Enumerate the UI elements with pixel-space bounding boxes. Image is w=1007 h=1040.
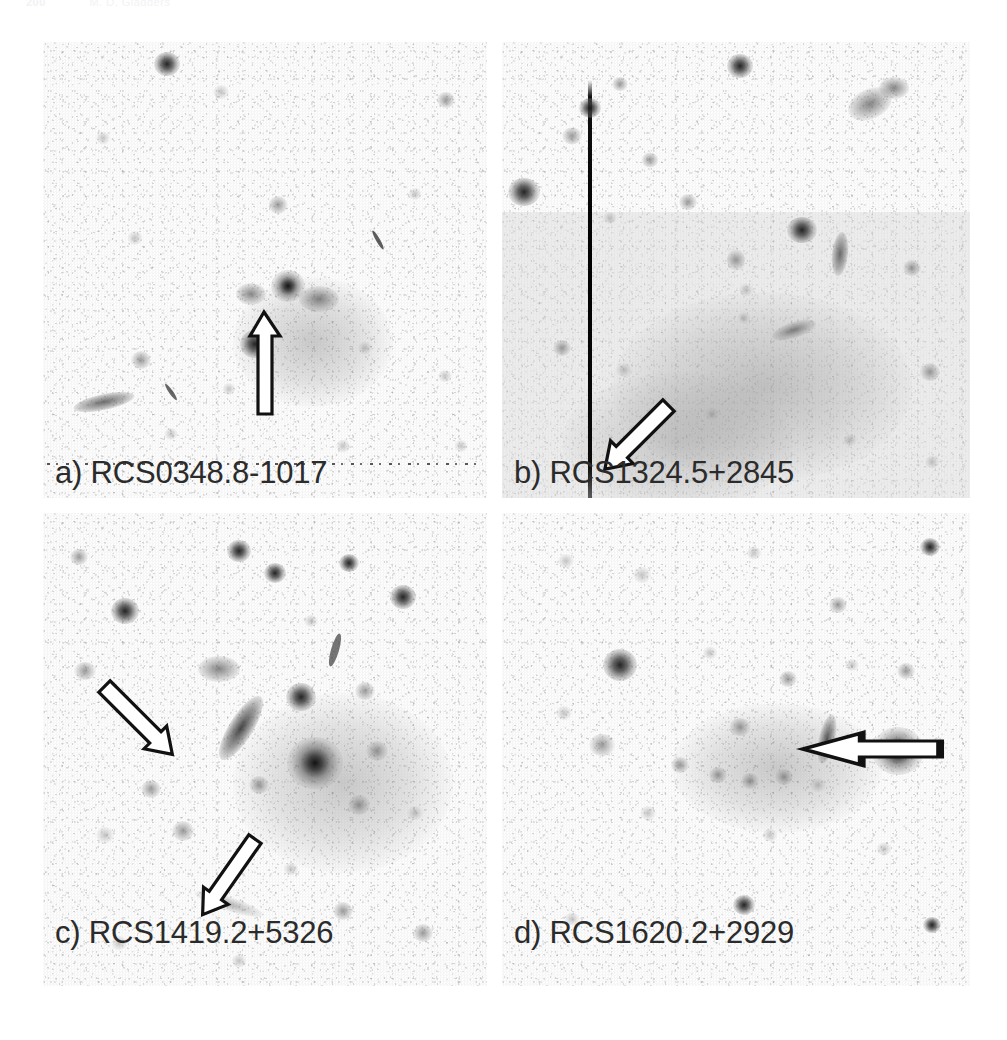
panel-a-caption: a) RCS0348.8-1017 bbox=[55, 457, 327, 488]
page-number: 200 bbox=[26, 0, 46, 8]
running-head-text: M. D. Gladders bbox=[89, 0, 170, 8]
panel-b-rcs1324: b) RCS1324.5+2845 bbox=[502, 42, 970, 498]
panel-d-rcs1620: d) RCS1620.2+2929 bbox=[502, 513, 970, 986]
panel-d-caption: d) RCS1620.2+2929 bbox=[514, 917, 794, 948]
panel-b-caption: b) RCS1324.5+2845 bbox=[514, 457, 794, 488]
panel-c-rcs1419: c) RCS1419.2+5326 bbox=[43, 513, 487, 986]
sky-background-a bbox=[43, 42, 487, 498]
figure-panel-grid: a) RCS0348.8-1017 bbox=[43, 42, 970, 986]
ccd-bleed-column-b bbox=[588, 80, 592, 498]
panel-a-rcs0348: a) RCS0348.8-1017 bbox=[43, 42, 487, 498]
running-head: 200 M. D. Gladders bbox=[26, 0, 526, 10]
panel-c-caption: c) RCS1419.2+5326 bbox=[55, 917, 333, 948]
